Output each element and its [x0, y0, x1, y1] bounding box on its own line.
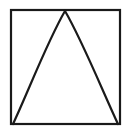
canvas-background [0, 0, 130, 136]
line-drawing-canvas [0, 0, 130, 136]
figure-container [0, 0, 130, 136]
